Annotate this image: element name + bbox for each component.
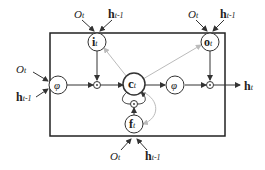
output-h-label: ht	[244, 79, 254, 93]
input-o-label: Ot	[16, 63, 27, 75]
input-hprev-label: ht-1	[108, 7, 124, 21]
phi-out-label: φ	[171, 79, 177, 91]
input-o-label: Ot	[188, 8, 199, 20]
input-o-label: Ot	[74, 8, 85, 20]
input-o-label: Ot	[110, 150, 121, 162]
input-hprev-label: ht-1	[220, 7, 236, 21]
lstm-diagram: it ot ft ct φ φ Ot ht-1 Ot ht-1 Ot ht-1 …	[0, 0, 265, 170]
input-hprev-label: ht-1	[16, 90, 32, 104]
input-hprev-label: ht-1	[145, 149, 161, 163]
phi-in-label: φ	[54, 79, 60, 91]
